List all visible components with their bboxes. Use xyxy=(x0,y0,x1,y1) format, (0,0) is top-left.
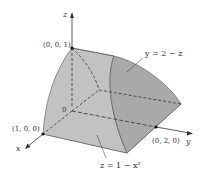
cylinder-equation-label: z = 1 − x² xyxy=(100,161,141,170)
y-arrowhead xyxy=(187,131,193,136)
point-x-one-label: (1, 0, 0) xyxy=(12,125,40,133)
z-arrowhead xyxy=(70,12,74,18)
y-axis xyxy=(156,127,190,133)
point-y-two xyxy=(154,125,157,128)
x-axis-label: x xyxy=(16,144,21,153)
plane-equation-label: y = 2 − z xyxy=(144,49,182,58)
y-axis-label: y xyxy=(185,137,191,146)
point-y-two-label: (0, 2, 0) xyxy=(152,137,180,145)
x-axis xyxy=(27,134,43,147)
point-z-top-label: (0, 0, 1) xyxy=(43,41,71,49)
z-axis-label: z xyxy=(62,10,68,19)
solid-region-diagram: z y x 0 (0, 0, 1) (1, 0, 0) (0, 2, 0) y … xyxy=(0,0,205,183)
point-z-top xyxy=(70,46,73,49)
origin-label: 0 xyxy=(62,106,66,114)
point-x-one xyxy=(41,132,44,135)
